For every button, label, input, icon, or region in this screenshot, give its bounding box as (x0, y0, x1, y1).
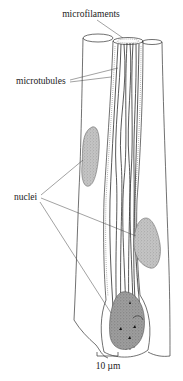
scale-bar: 10 µm (96, 352, 121, 371)
label-nuclei: nuclei (14, 192, 38, 202)
nucleus-upper-left (82, 127, 100, 186)
label-microfilaments: microfilaments (62, 9, 120, 19)
left-cell (74, 34, 113, 358)
label-microtubules: microtubules (16, 76, 66, 86)
scale-bar-label: 10 µm (96, 361, 121, 371)
right-cell (142, 40, 170, 357)
cell-diagram: microfilaments microtubules nuclei 10 µm (0, 0, 183, 381)
